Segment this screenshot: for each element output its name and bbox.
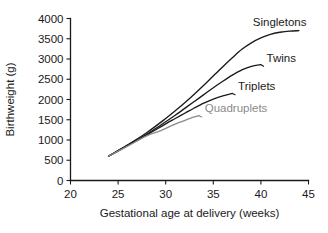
series-line-singletons	[109, 31, 299, 157]
x-axis-tick-label: 30	[159, 188, 172, 200]
series-line-quadruplets	[109, 116, 199, 157]
plot-axes	[67, 19, 309, 185]
x-axis-title: Gestational age at delivery (weeks)	[100, 207, 280, 219]
x-axis-tick-labels: 202530354045	[64, 188, 315, 200]
y-axis-tick-label: 1000	[38, 134, 64, 146]
y-axis-tick-label: 500	[44, 154, 63, 166]
series-label-triplets: Triplets	[238, 80, 276, 92]
x-axis-tick-label: 40	[255, 188, 268, 200]
x-axis-tick-label: 25	[112, 188, 125, 200]
series-label-twins: Twins	[267, 52, 297, 64]
y-axis-tick-label: 2500	[38, 73, 64, 85]
series-label-quadruplets: Quadruplets	[205, 102, 268, 114]
y-axis-tick-label: 3000	[38, 53, 64, 65]
leader-line-triplets	[232, 93, 235, 94]
y-axis-title: Birthweight (g)	[4, 62, 16, 136]
x-axis-tick-label: 20	[64, 188, 77, 200]
series-label-singletons: Singletons	[253, 16, 307, 28]
x-axis-tick-label: 45	[302, 188, 315, 200]
y-axis-tick-label: 3500	[38, 33, 64, 45]
x-axis-tick-label: 35	[207, 188, 220, 200]
leader-line-twins	[261, 65, 264, 67]
y-axis-tick-label: 2000	[38, 94, 64, 106]
y-axis-tick-labels: 05001000150020002500300035004000	[38, 13, 64, 187]
chart-canvas: 05001000150020002500300035004000 2025303…	[0, 0, 328, 233]
y-axis-tick-label: 1500	[38, 114, 64, 126]
series-curves	[109, 31, 299, 157]
y-axis-tick-label: 0	[57, 175, 63, 187]
birthweight-gestational-age-chart: 05001000150020002500300035004000 2025303…	[0, 0, 328, 233]
y-axis-tick-label: 4000	[38, 13, 64, 25]
leader-line-quadruplets	[199, 116, 202, 117]
